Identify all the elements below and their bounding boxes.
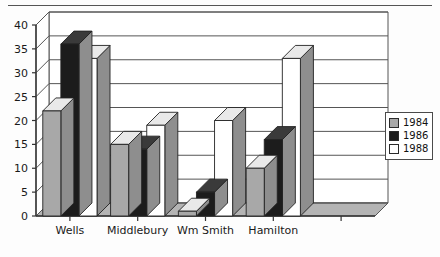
legend-item: 1986 (389, 130, 428, 142)
y-tick-label: 20 (14, 115, 28, 128)
x-tick-label: Middlebury (107, 224, 169, 237)
bar-1984-Hamilton (246, 155, 277, 216)
legend-item: 1984 (389, 117, 428, 129)
y-tick-label: 15 (14, 138, 28, 151)
legend-label-1986: 1986 (403, 131, 428, 141)
x-tick-label: Wells (55, 224, 84, 237)
y-tick-label: 25 (14, 91, 28, 104)
y-tick-label: 10 (14, 162, 28, 175)
y-tick-label: 35 (14, 43, 28, 56)
legend-item: 1988 (389, 143, 428, 155)
y-tick-label: 40 (14, 19, 28, 32)
y-tick-label: 5 (21, 186, 28, 199)
legend-swatch-1986 (389, 131, 399, 141)
bar-1984-Middlebury (111, 131, 142, 216)
chart-screenshot: 0510152025303540WellsMiddleburyWm SmithH… (0, 0, 440, 257)
bar-chart-3d: 0510152025303540WellsMiddleburyWm SmithH… (0, 0, 440, 257)
bar-1984-Wells (43, 98, 74, 216)
legend-swatch-1984 (389, 118, 399, 128)
chart-legend: 1984 1986 1988 (385, 112, 433, 160)
legend-label-1988: 1988 (403, 144, 428, 154)
x-tick-label: Wm Smith (177, 224, 234, 237)
x-tick-label: Hamilton (248, 224, 298, 237)
y-tick-label: 0 (21, 210, 28, 223)
legend-swatch-1988 (389, 144, 399, 154)
y-tick-label: 30 (14, 67, 28, 80)
legend-label-1984: 1984 (403, 118, 428, 128)
